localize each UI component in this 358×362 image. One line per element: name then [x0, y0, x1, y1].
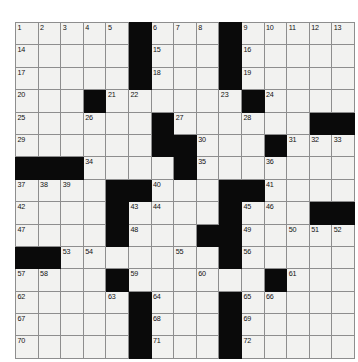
- crossword-grid[interactable]: 1234567891011121314151617181920212223242…: [15, 22, 355, 359]
- crossword-cell[interactable]: [128, 246, 151, 268]
- crossword-cell[interactable]: 7: [174, 23, 197, 45]
- crossword-cell[interactable]: 14: [16, 45, 39, 67]
- crossword-cell[interactable]: 43: [128, 202, 151, 224]
- crossword-cell[interactable]: [174, 90, 197, 112]
- crossword-cell[interactable]: [128, 112, 151, 134]
- crossword-cell[interactable]: [61, 112, 84, 134]
- crossword-cell[interactable]: [106, 67, 129, 89]
- crossword-cell[interactable]: [219, 157, 242, 179]
- crossword-cell[interactable]: 13: [332, 23, 355, 45]
- crossword-cell[interactable]: 39: [61, 179, 84, 201]
- crossword-cell[interactable]: [332, 67, 355, 89]
- crossword-cell[interactable]: [332, 291, 355, 313]
- crossword-cell[interactable]: 22: [128, 90, 151, 112]
- crossword-cell[interactable]: 2: [38, 23, 61, 45]
- crossword-cell[interactable]: [83, 314, 106, 336]
- crossword-cell[interactable]: [151, 269, 174, 291]
- crossword-cell[interactable]: [38, 90, 61, 112]
- crossword-cell[interactable]: [196, 202, 219, 224]
- crossword-cell[interactable]: 68: [151, 314, 174, 336]
- crossword-cell[interactable]: [287, 112, 310, 134]
- crossword-cell[interactable]: [174, 179, 197, 201]
- crossword-cell[interactable]: 58: [38, 269, 61, 291]
- crossword-cell[interactable]: [128, 157, 151, 179]
- crossword-cell[interactable]: [287, 314, 310, 336]
- crossword-cell[interactable]: [174, 314, 197, 336]
- crossword-cell[interactable]: 50: [287, 224, 310, 246]
- crossword-cell[interactable]: [196, 45, 219, 67]
- crossword-cell[interactable]: [309, 269, 332, 291]
- crossword-cell[interactable]: 60: [196, 269, 219, 291]
- crossword-cell[interactable]: 4: [83, 23, 106, 45]
- crossword-cell[interactable]: 48: [128, 224, 151, 246]
- crossword-cell[interactable]: 31: [287, 134, 310, 156]
- crossword-cell[interactable]: [128, 134, 151, 156]
- crossword-cell[interactable]: [61, 291, 84, 313]
- crossword-cell[interactable]: [151, 246, 174, 268]
- crossword-cell[interactable]: [38, 202, 61, 224]
- crossword-cell[interactable]: [196, 90, 219, 112]
- crossword-cell[interactable]: 38: [38, 179, 61, 201]
- crossword-cell[interactable]: 66: [264, 291, 287, 313]
- crossword-cell[interactable]: [309, 90, 332, 112]
- crossword-cell[interactable]: [38, 336, 61, 358]
- crossword-cell[interactable]: 28: [241, 112, 264, 134]
- crossword-cell[interactable]: [309, 157, 332, 179]
- crossword-cell[interactable]: 61: [287, 269, 310, 291]
- crossword-cell[interactable]: 6: [151, 23, 174, 45]
- crossword-cell[interactable]: [83, 45, 106, 67]
- crossword-cell[interactable]: [196, 112, 219, 134]
- crossword-cell[interactable]: [264, 336, 287, 358]
- crossword-cell[interactable]: [309, 336, 332, 358]
- crossword-cell[interactable]: [309, 246, 332, 268]
- crossword-cell[interactable]: 62: [16, 291, 39, 313]
- crossword-cell[interactable]: [174, 45, 197, 67]
- crossword-cell[interactable]: [332, 179, 355, 201]
- crossword-cell[interactable]: 11: [287, 23, 310, 45]
- crossword-cell[interactable]: [196, 336, 219, 358]
- crossword-cell[interactable]: 41: [264, 179, 287, 201]
- crossword-cell[interactable]: [38, 314, 61, 336]
- crossword-cell[interactable]: [264, 45, 287, 67]
- crossword-cell[interactable]: [174, 291, 197, 313]
- crossword-cell[interactable]: [61, 67, 84, 89]
- crossword-cell[interactable]: [287, 246, 310, 268]
- crossword-cell[interactable]: [264, 314, 287, 336]
- crossword-cell[interactable]: [83, 134, 106, 156]
- crossword-cell[interactable]: 15: [151, 45, 174, 67]
- crossword-cell[interactable]: [61, 224, 84, 246]
- crossword-cell[interactable]: [287, 157, 310, 179]
- crossword-cell[interactable]: 65: [241, 291, 264, 313]
- crossword-cell[interactable]: 27: [174, 112, 197, 134]
- crossword-cell[interactable]: [309, 45, 332, 67]
- crossword-cell[interactable]: [38, 67, 61, 89]
- crossword-cell[interactable]: 12: [309, 23, 332, 45]
- crossword-cell[interactable]: 35: [196, 157, 219, 179]
- crossword-cell[interactable]: 57: [16, 269, 39, 291]
- crossword-cell[interactable]: [309, 67, 332, 89]
- crossword-cell[interactable]: [196, 179, 219, 201]
- crossword-cell[interactable]: [83, 336, 106, 358]
- crossword-cell[interactable]: [287, 67, 310, 89]
- crossword-cell[interactable]: 64: [151, 291, 174, 313]
- crossword-cell[interactable]: 18: [151, 67, 174, 89]
- crossword-cell[interactable]: [83, 269, 106, 291]
- crossword-cell[interactable]: [241, 157, 264, 179]
- crossword-cell[interactable]: 49: [241, 224, 264, 246]
- crossword-cell[interactable]: [332, 157, 355, 179]
- crossword-cell[interactable]: [106, 157, 129, 179]
- crossword-cell[interactable]: [309, 179, 332, 201]
- crossword-cell[interactable]: [287, 202, 310, 224]
- crossword-cell[interactable]: [174, 224, 197, 246]
- crossword-cell[interactable]: [219, 269, 242, 291]
- crossword-cell[interactable]: [332, 90, 355, 112]
- crossword-cell[interactable]: [332, 269, 355, 291]
- crossword-cell[interactable]: [287, 90, 310, 112]
- crossword-cell[interactable]: 1: [16, 23, 39, 45]
- crossword-cell[interactable]: 56: [241, 246, 264, 268]
- crossword-cell[interactable]: 46: [264, 202, 287, 224]
- crossword-cell[interactable]: 19: [241, 67, 264, 89]
- crossword-cell[interactable]: [219, 134, 242, 156]
- crossword-cell[interactable]: 29: [16, 134, 39, 156]
- crossword-cell[interactable]: [264, 224, 287, 246]
